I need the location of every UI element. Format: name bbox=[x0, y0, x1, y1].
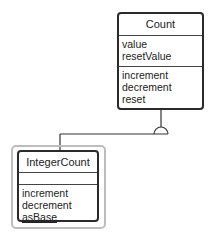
static-method: asBase bbox=[22, 211, 94, 223]
class-count[interactable]: Count value resetValue increment decreme… bbox=[117, 12, 204, 110]
class-name: Count bbox=[119, 14, 202, 36]
method: increment bbox=[122, 69, 199, 81]
methods-section: increment decrement asBase bbox=[19, 184, 97, 224]
generalization-icon bbox=[154, 127, 168, 134]
attributes-section bbox=[19, 173, 97, 184]
attributes-section: value resetValue bbox=[119, 36, 202, 66]
method: reset bbox=[122, 93, 199, 105]
class-name: IntegerCount bbox=[19, 152, 97, 173]
method: increment bbox=[22, 187, 94, 199]
class-integer-count[interactable]: IntegerCount increment decrement asBase bbox=[17, 150, 99, 222]
attribute: value bbox=[122, 38, 199, 50]
attribute: resetValue bbox=[122, 50, 199, 62]
method: decrement bbox=[122, 81, 199, 93]
method: decrement bbox=[22, 199, 94, 211]
methods-section: increment decrement reset bbox=[119, 66, 202, 106]
